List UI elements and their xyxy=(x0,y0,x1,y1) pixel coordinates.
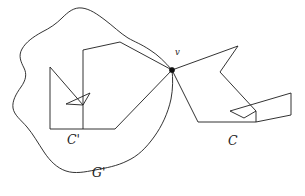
cut-vertex-dot xyxy=(169,67,174,72)
inner-cycle-label: C' xyxy=(67,134,80,147)
inner-cycle-segment-bottom xyxy=(50,67,172,129)
diagram-svg xyxy=(0,0,305,196)
graph-blob-outline xyxy=(13,8,173,173)
figure-canvas: v C' C G' xyxy=(0,0,305,196)
graph-label: G' xyxy=(92,167,105,180)
outer-cycle-segment-main xyxy=(172,46,291,122)
vertex-label: v xyxy=(175,48,180,57)
inner-cycle-segment-spur xyxy=(50,67,90,105)
outer-cycle-label: C xyxy=(228,135,238,148)
